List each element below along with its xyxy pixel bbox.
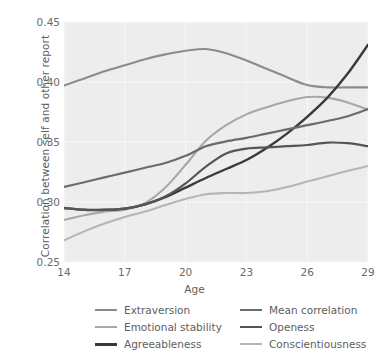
chart-figure: Correlation between self and other repor… xyxy=(0,0,389,352)
series-line-mean-correlation xyxy=(64,109,368,187)
chart-legend: ExtraversionEmotional stabilityAgreeable… xyxy=(95,302,385,352)
plot-svg xyxy=(64,22,368,262)
legend-swatch xyxy=(240,326,262,328)
legend-item-agreeableness[interactable]: Agreeableness xyxy=(95,336,201,352)
y-tick-label: 0.30 xyxy=(30,196,60,208)
x-tick-label: 26 xyxy=(287,266,327,278)
x-tick-label: 29 xyxy=(348,266,388,278)
y-tick-label: 0.45 xyxy=(30,16,60,28)
legend-swatch xyxy=(95,343,117,346)
legend-item-mean-correlation[interactable]: Mean correlation xyxy=(240,302,357,318)
legend-label: Mean correlation xyxy=(269,305,357,316)
x-tick-label: 20 xyxy=(166,266,206,278)
legend-item-conscientiousness[interactable]: Conscientiousness xyxy=(240,336,366,352)
x-axis-title: Age xyxy=(0,283,389,295)
y-axis-tick-labels: 0.450.400.350.300.25 xyxy=(28,0,60,352)
plot-area xyxy=(64,22,368,262)
legend-item-openess[interactable]: Openess xyxy=(240,319,314,335)
x-tick-label: 14 xyxy=(44,266,84,278)
legend-label: Extraversion xyxy=(124,305,190,316)
legend-label: Conscientiousness xyxy=(269,339,366,350)
legend-label: Emotional stability xyxy=(124,322,222,333)
legend-swatch xyxy=(240,343,262,345)
y-tick-label: 0.40 xyxy=(30,76,60,88)
y-tick-label: 0.35 xyxy=(30,136,60,148)
legend-item-extraversion[interactable]: Extraversion xyxy=(95,302,190,318)
legend-item-emotional-stability[interactable]: Emotional stability xyxy=(95,319,222,335)
legend-label: Agreeableness xyxy=(124,339,201,350)
x-tick-label: 23 xyxy=(226,266,266,278)
legend-swatch xyxy=(95,326,117,328)
legend-swatch xyxy=(240,309,262,311)
x-tick-label: 17 xyxy=(105,266,145,278)
x-axis-tick-labels: 141720232629 xyxy=(0,266,389,282)
legend-swatch xyxy=(95,309,117,311)
legend-label: Openess xyxy=(269,322,314,333)
